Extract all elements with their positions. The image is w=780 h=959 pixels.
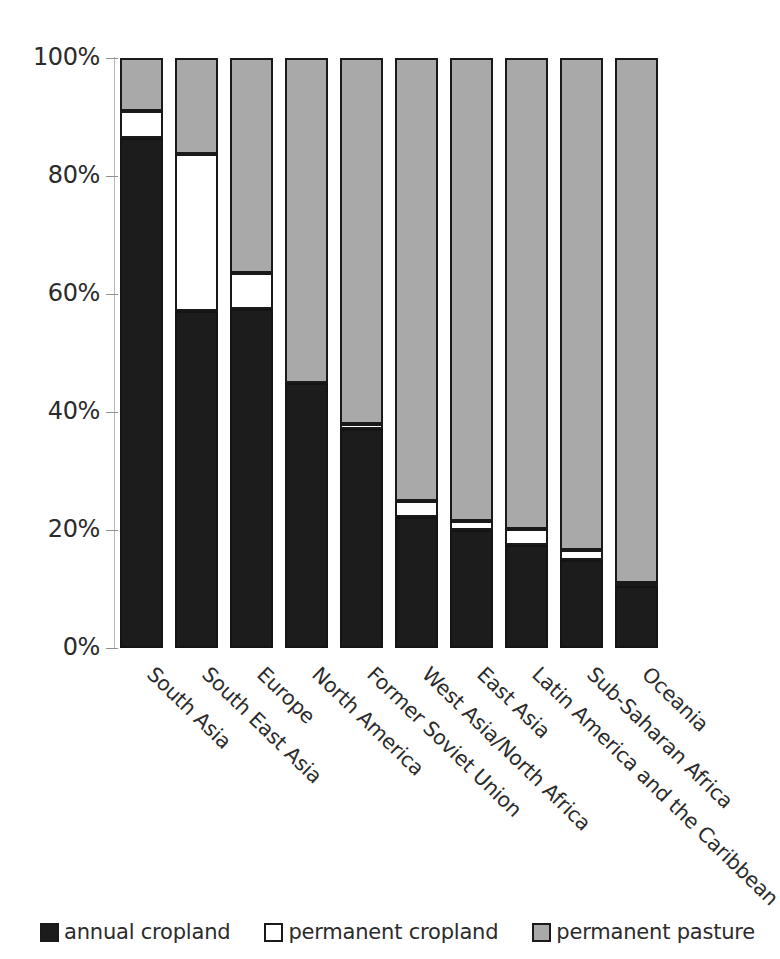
bar-segment-annual-cropland (120, 138, 163, 648)
bar-segment-annual-cropland (615, 586, 658, 648)
y-axis-tick-mark (106, 294, 118, 295)
bar-europe (230, 58, 273, 648)
bar-south-east-asia (175, 58, 218, 648)
y-axis-tick-mark (106, 176, 118, 177)
bar-segment-permanent-pasture (505, 58, 548, 529)
y-axis-tick-label: 60% (48, 279, 100, 307)
bar-segment-annual-cropland (285, 383, 328, 648)
y-axis-tick: 60% (0, 294, 118, 295)
bar-segment-annual-cropland (230, 309, 273, 648)
legend-swatch-pasture (532, 923, 551, 942)
bar-segment-permanent-pasture (450, 58, 493, 521)
bar-segment-permanent-cropland (120, 111, 163, 138)
bar-former-soviet-union (340, 58, 383, 648)
x-axis-labels: South AsiaSouth East AsiaEuropeNorth Ame… (0, 648, 679, 878)
bar-oceania (615, 58, 658, 648)
bar-west-asia-north-africa (395, 58, 438, 648)
legend-swatch-annual (40, 923, 59, 942)
bar-sub-saharan-africa (560, 58, 603, 648)
bar-segment-permanent-cropland (340, 424, 383, 429)
legend-swatch-permanent (264, 923, 283, 942)
legend-label: permanent cropland (288, 920, 498, 944)
bar-east-asia (450, 58, 493, 648)
legend-item: permanent pasture (532, 920, 755, 944)
y-axis-tick-mark (106, 58, 118, 59)
bar-north-america (285, 58, 328, 648)
chart-legend: annual croplandpermanent croplandpermane… (40, 915, 660, 949)
legend-item: annual cropland (40, 920, 230, 944)
bar-segment-permanent-cropland (175, 154, 218, 311)
y-axis-tick: 20% (0, 530, 118, 531)
bar-south-asia (120, 58, 163, 648)
legend-label: permanent pasture (556, 920, 755, 944)
y-axis-tick-label: 20% (48, 515, 100, 543)
bar-segment-annual-cropland (505, 545, 548, 648)
bar-segment-permanent-cropland (230, 273, 273, 308)
bar-segment-annual-cropland (560, 560, 603, 648)
bar-segment-permanent-cropland (560, 550, 603, 560)
y-axis-line (114, 57, 115, 649)
y-axis-tick-mark (106, 412, 118, 413)
y-axis-tick-label: 40% (48, 397, 100, 425)
bar-segment-permanent-pasture (285, 58, 328, 383)
bar-latin-america-and-the-caribbean (505, 58, 548, 648)
x-axis-label: Latin America and the Caribbean (527, 662, 780, 910)
bar-segment-permanent-pasture (120, 58, 163, 111)
bar-segment-permanent-cropland (450, 521, 493, 530)
y-axis-tick-label: 80% (48, 161, 100, 189)
y-axis-tick: 80% (0, 176, 118, 177)
y-axis-tick-label: 100% (33, 43, 100, 71)
bar-segment-permanent-cropland (395, 501, 438, 518)
bar-segment-annual-cropland (450, 530, 493, 648)
bar-segment-permanent-pasture (395, 58, 438, 501)
legend-label: annual cropland (64, 920, 230, 944)
legend-item: permanent cropland (264, 920, 498, 944)
bar-segment-permanent-pasture (340, 58, 383, 424)
bar-segment-permanent-cropland (505, 529, 548, 545)
bar-segment-permanent-pasture (560, 58, 603, 550)
bar-segment-annual-cropland (175, 311, 218, 648)
y-axis-tick: 40% (0, 412, 118, 413)
bar-segment-annual-cropland (340, 429, 383, 648)
bar-segment-permanent-pasture (615, 58, 658, 583)
bar-segment-permanent-pasture (230, 58, 273, 273)
y-axis-tick-mark (106, 530, 118, 531)
plot-area (120, 58, 670, 648)
bar-segment-permanent-pasture (175, 58, 218, 154)
y-axis-tick: 100% (0, 58, 118, 59)
bar-segment-annual-cropland (395, 517, 438, 648)
